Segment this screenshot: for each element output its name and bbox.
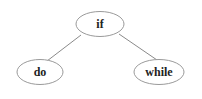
node-do-label: do xyxy=(34,65,47,79)
node-while: while xyxy=(134,60,184,85)
diagram-svg: if do while xyxy=(0,0,202,99)
edge-if-do xyxy=(47,35,81,61)
node-if: if xyxy=(76,12,124,37)
node-do: do xyxy=(17,60,63,85)
node-while-label: while xyxy=(145,65,173,79)
edge-if-while xyxy=(119,34,157,60)
node-if-label: if xyxy=(96,17,104,31)
tree-diagram: if do while xyxy=(0,0,202,99)
